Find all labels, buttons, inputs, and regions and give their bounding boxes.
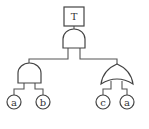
basic-event-label: b	[40, 97, 46, 108]
basic-event-label: a	[11, 97, 17, 108]
top-event: T	[64, 7, 84, 26]
basic-event-c: c	[96, 95, 110, 109]
basic-event-label: a	[124, 97, 130, 108]
right-or-gate-icon	[101, 64, 133, 84]
top-and-gate-icon	[63, 29, 85, 48]
fault-tree-diagram: T a b c a	[0, 0, 149, 129]
top-event-label: T	[71, 11, 78, 22]
left-and-gate-icon	[18, 63, 41, 83]
basic-event-a-2: a	[120, 95, 134, 109]
basic-event-label: c	[100, 97, 106, 108]
basic-event-b: b	[36, 95, 50, 109]
basic-event-a-1: a	[7, 95, 21, 109]
